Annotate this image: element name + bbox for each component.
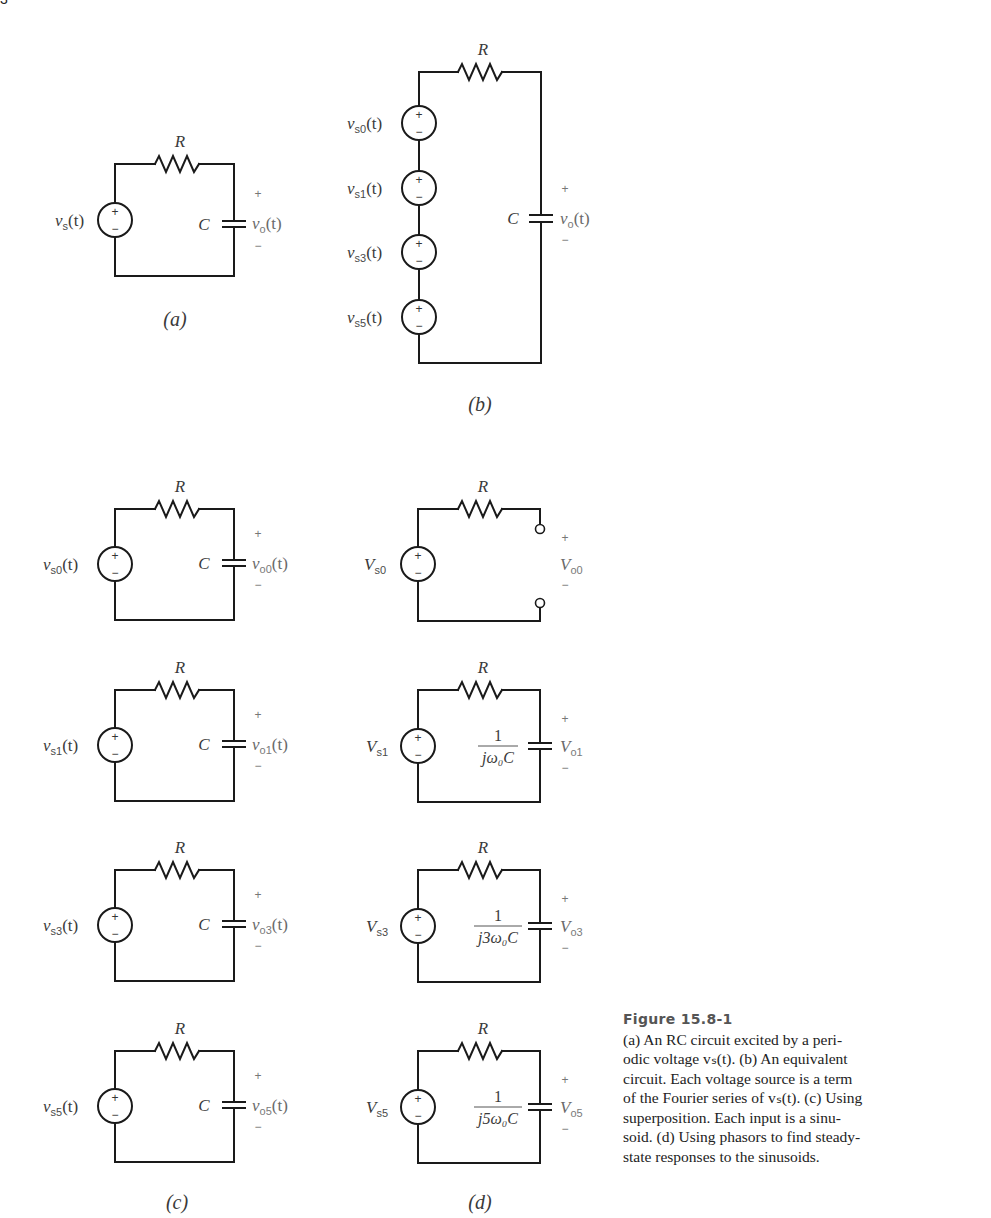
resistor-label: R xyxy=(174,658,186,677)
svg-text:−: − xyxy=(415,254,422,268)
svg-text:−: − xyxy=(415,190,422,204)
svg-text:+: + xyxy=(414,549,421,563)
svg-text:−: − xyxy=(414,928,421,942)
resistor-icon xyxy=(155,156,199,172)
resistor-label: R xyxy=(174,1019,186,1038)
source-label: vs5(t) xyxy=(43,1097,78,1118)
source-phasor-label: Vs3 xyxy=(366,917,388,938)
circuit-d0: + − R Vs0 + − Vo0 xyxy=(364,477,583,621)
resistor-icon xyxy=(155,501,199,517)
svg-text:+: + xyxy=(111,730,118,744)
capacitor-label: C xyxy=(198,554,210,573)
svg-text:+: + xyxy=(415,237,422,251)
resistor-label: R xyxy=(174,132,186,151)
circuit-d5: + − R Vs5 1 j5ω₀C + − Vo5 (d) xyxy=(366,1019,583,1214)
svg-text:−: − xyxy=(111,747,118,761)
svg-text:−: − xyxy=(414,748,421,762)
caption-line: odic voltage vₛ(t). (b) An equivalent xyxy=(623,1049,983,1069)
svg-text:−: − xyxy=(561,233,568,247)
svg-text:+: + xyxy=(561,182,568,196)
source-phasor-label: Vs0 xyxy=(364,555,386,576)
svg-text:1: 1 xyxy=(494,907,502,924)
svg-text:−: − xyxy=(254,578,261,592)
capacitor-label: C xyxy=(198,735,210,754)
svg-text:+: + xyxy=(111,1091,118,1105)
svg-text:+: + xyxy=(561,531,568,545)
source-s1: + − vs1(t) xyxy=(347,171,436,205)
capacitor-label: C xyxy=(198,1096,210,1115)
caption-line: state responses to the sinusoids. xyxy=(623,1147,983,1167)
svg-text:+: + xyxy=(414,911,421,925)
resistor-icon xyxy=(155,862,199,878)
svg-text:−: − xyxy=(254,1120,261,1134)
part-label-a: (a) xyxy=(163,308,187,331)
circuit-c0: + − R C vs0(t) + − vo0(t) xyxy=(43,477,288,620)
svg-text:+: + xyxy=(561,892,568,906)
svg-text:−: − xyxy=(111,927,118,941)
resistor-icon xyxy=(458,64,502,80)
svg-text:+: + xyxy=(414,731,421,745)
impedance-fraction: 1 j5ω₀C xyxy=(474,1088,522,1128)
svg-text:jω₀C: jω₀C xyxy=(480,749,514,767)
circuit-c3: + − R C vs3(t) + − vo3(t) xyxy=(43,838,288,981)
svg-text:−: − xyxy=(254,239,261,253)
wire xyxy=(419,72,541,363)
circuit-b: R C + − vo(t) + − vs0(t) + − vs1(t) + − … xyxy=(347,40,590,416)
output-label: vo3(t) xyxy=(252,915,288,936)
capacitor-label: C xyxy=(507,209,519,228)
source-label: vs0(t) xyxy=(43,555,78,576)
source-label: vs0(t) xyxy=(347,114,382,135)
part-label-c: (c) xyxy=(166,1191,189,1214)
svg-text:+: + xyxy=(111,910,118,924)
output-label: vo1(t) xyxy=(252,735,288,756)
source-label: vs3(t) xyxy=(347,243,382,264)
svg-text:−: − xyxy=(561,761,568,775)
svg-text:+: + xyxy=(561,1073,568,1087)
capacitor-label: C xyxy=(198,915,210,934)
caption-line: of the Fourier series of vₛ(t). (c) Usin… xyxy=(623,1088,983,1108)
svg-text:−: − xyxy=(111,1108,118,1122)
circuit-c5: + − R C vs5(t) + − vo5(t) (c) xyxy=(43,1019,288,1214)
svg-text:−: − xyxy=(561,941,568,955)
svg-text:−: − xyxy=(414,566,421,580)
output-label: vo0(t) xyxy=(252,554,288,575)
resistor-label: R xyxy=(174,838,186,857)
circuit-d3: + − R Vs3 1 j3ω₀C + − Vo3 xyxy=(366,838,583,982)
output-label: vo(t) xyxy=(252,214,282,235)
source-s0: + − vs0(t) xyxy=(347,106,436,140)
source-label: vs3(t) xyxy=(43,916,78,937)
svg-text:1: 1 xyxy=(494,727,502,744)
svg-text:+: + xyxy=(415,108,422,122)
part-label-d: (d) xyxy=(468,1191,492,1214)
resistor-icon xyxy=(458,862,502,878)
svg-text:j5ω₀C: j5ω₀C xyxy=(476,1110,518,1128)
output-label: vo5(t) xyxy=(252,1096,288,1117)
source-label: vs1(t) xyxy=(43,736,78,757)
output-phasor-label: Vo3 xyxy=(560,917,583,938)
svg-text:−: − xyxy=(254,939,261,953)
svg-text:−: − xyxy=(415,319,422,333)
svg-text:−: − xyxy=(254,759,261,773)
figure-title: Figure 15.8-1 xyxy=(623,1010,983,1030)
impedance-fraction: 1 j3ω₀C xyxy=(474,907,522,947)
resistor-label: R xyxy=(477,1019,489,1038)
svg-text:+: + xyxy=(111,549,118,563)
impedance-fraction: 1 jω₀C xyxy=(478,727,518,767)
source-label: vs5(t) xyxy=(347,308,382,329)
source-s5: + − vs5(t) xyxy=(347,300,436,334)
capacitor-label: C xyxy=(198,215,210,234)
source-phasor-label: Vs5 xyxy=(366,1098,388,1119)
svg-text:−: − xyxy=(561,1122,568,1136)
resistor-icon xyxy=(155,1043,199,1059)
output-phasor-label: Vo1 xyxy=(560,737,583,758)
svg-text:−: − xyxy=(111,566,118,580)
circuit-d1: + − R Vs1 1 jω₀C + − Vo1 xyxy=(366,658,583,802)
output-phasor-label: Vo0 xyxy=(560,555,583,576)
caption-line: superposition. Each input is a sinu- xyxy=(623,1108,983,1128)
part-label-b: (b) xyxy=(468,393,492,416)
svg-text:+: + xyxy=(254,1069,261,1083)
wire xyxy=(418,509,540,621)
resistor-icon xyxy=(155,682,199,698)
output-label: vo(t) xyxy=(560,209,590,230)
open-terminal-icon xyxy=(536,599,545,608)
